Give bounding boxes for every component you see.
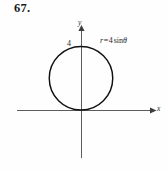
x-axis [17, 107, 157, 113]
x-axis-label: x [157, 105, 160, 113]
y-axis-label: y [78, 19, 81, 27]
equation-angle: θ [123, 36, 127, 45]
y-axis [78, 25, 84, 158]
equation-function: sin [113, 36, 123, 45]
polar-plot-svg [0, 0, 167, 173]
polar-curve-circle [49, 47, 113, 111]
y-axis-tick-label: 4 [67, 39, 71, 48]
x-axis-arrowhead [150, 107, 157, 113]
figure-container: 67. y x 4 r=4sinθ [0, 0, 167, 173]
polar-equation-label: r=4sinθ [100, 36, 127, 46]
